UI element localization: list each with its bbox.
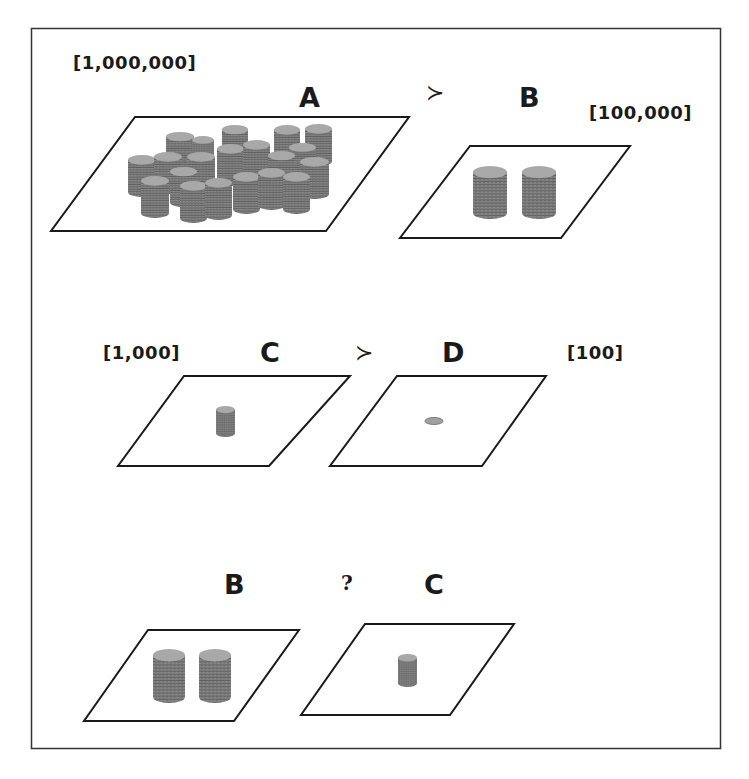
unknown-preference-symbol: ? — [341, 571, 353, 595]
choice-diagram: [1,000,000] A ≻ B [100,000] [1,000] C ≻ … — [0, 0, 749, 779]
option-label-b-bottom: B — [224, 569, 245, 600]
coin-stack-c-bottom — [398, 654, 417, 687]
plane-b-bottom — [84, 630, 299, 721]
option-label-b: B — [519, 82, 540, 113]
option-label-a: A — [299, 82, 320, 113]
amount-b: [100,000] — [589, 102, 692, 123]
amount-a: [1,000,000] — [73, 52, 196, 73]
option-label-c-bottom: C — [424, 569, 444, 600]
coin-stack-c — [216, 406, 235, 437]
plane-b — [400, 146, 630, 238]
option-label-d: D — [442, 337, 464, 368]
option-label-c: C — [260, 337, 280, 368]
amount-d: [100] — [567, 342, 624, 363]
preference-symbol-row-2: ≻ — [355, 340, 373, 365]
single-coin-d — [425, 418, 443, 425]
amount-c: [1,000] — [103, 342, 180, 363]
preference-symbol-row-1: ≻ — [426, 80, 444, 105]
